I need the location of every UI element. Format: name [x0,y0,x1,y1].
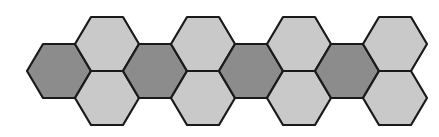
hexagon-diagram [0,0,439,137]
hexagon-group [27,17,427,125]
